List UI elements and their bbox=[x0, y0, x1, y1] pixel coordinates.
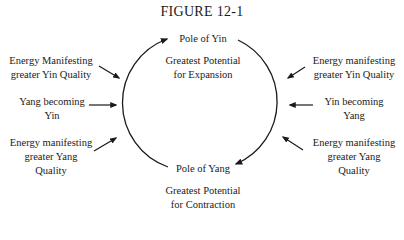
left-label-2-line2: Yin bbox=[10, 109, 94, 122]
left-label-3-line3: Quality bbox=[4, 164, 98, 177]
right-label-2-line2: Yang bbox=[310, 109, 398, 122]
right-arrow-3 bbox=[283, 137, 303, 150]
right-arrow-1 bbox=[288, 67, 305, 78]
right-label-2-line1: Yin becoming bbox=[310, 95, 398, 108]
pole-of-yin-label: Pole of Yin bbox=[150, 32, 256, 45]
left-label-1-line2: greater Yin Quality bbox=[4, 68, 98, 81]
pole-of-yang-label: Pole of Yang bbox=[150, 162, 256, 175]
top-description-line1: Greatest Potential bbox=[150, 54, 256, 67]
right-label-1-line1: Energy manifesting bbox=[306, 54, 402, 67]
right-label-1-line2: greater Yin Quality bbox=[306, 68, 402, 81]
right-label-3-line3: Quality bbox=[306, 164, 402, 177]
left-label-2-line1: Yang becoming bbox=[10, 95, 94, 108]
right-label-3-line1: Energy manifesting bbox=[306, 136, 402, 149]
left-label-3-line1: Energy manifesting bbox=[4, 136, 98, 149]
left-label-1-line1: Energy Manifesting bbox=[4, 54, 98, 67]
top-description-line2: for Expansion bbox=[150, 68, 256, 81]
right-label-3-line2: greater Yang bbox=[306, 150, 402, 163]
left-arrow-1 bbox=[99, 66, 119, 78]
left-label-3-line2: greater Yang bbox=[4, 150, 98, 163]
bottom-description-line2: for Contraction bbox=[150, 198, 256, 211]
bottom-description-line1: Greatest Potential bbox=[150, 184, 256, 197]
